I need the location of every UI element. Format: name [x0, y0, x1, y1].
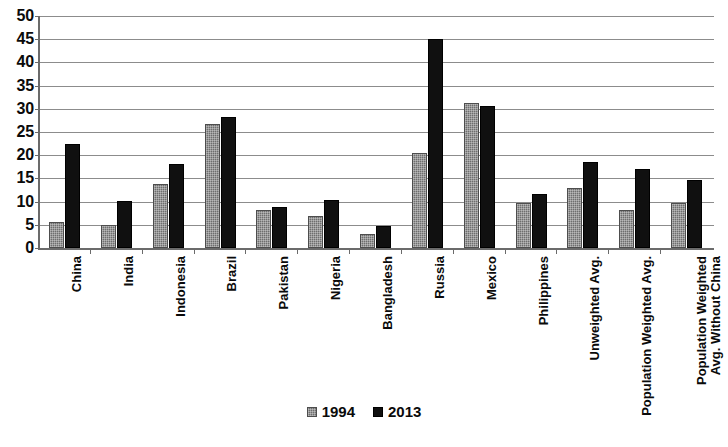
chart-legend: 19942013	[0, 404, 728, 419]
y-axis-tickmark	[35, 248, 40, 249]
x-axis-label-population-weighted-avg: Population Weighted Avg.	[640, 256, 654, 416]
bar-1994-philippines	[516, 203, 531, 248]
bar-2013-china	[65, 144, 80, 248]
bar-1994-population-weighted-avg-without-china	[671, 203, 686, 248]
bar-2013-india	[117, 201, 132, 248]
bar-group	[144, 16, 196, 248]
bar-2013-brazil	[221, 117, 236, 248]
legend-label: 1994	[322, 404, 355, 419]
y-axis-tick-label: 25	[0, 124, 34, 140]
y-axis-tick-label: 15	[0, 170, 34, 186]
bar-1994-indonesia	[153, 184, 168, 248]
bar-chart: 05101520253035404550 ChinaIndiaIndonesia…	[0, 0, 728, 447]
legend-label: 2013	[388, 404, 421, 419]
bar-2013-philippines	[532, 194, 547, 248]
x-axis-tickmark	[660, 248, 661, 254]
bar-2013-population-weighted-avg-without-china	[687, 180, 702, 248]
bar-1994-unweighted-avg	[567, 188, 582, 248]
y-axis-tick-label: 50	[0, 8, 34, 24]
y-axis-tick-label: 5	[0, 217, 34, 233]
bar-group	[662, 16, 714, 248]
bar-2013-indonesia	[169, 164, 184, 248]
x-axis-label-pakistan: Pakistan	[277, 256, 291, 309]
x-axis-label-china: China	[70, 256, 84, 292]
bar-1994-brazil	[205, 124, 220, 248]
bar-group	[247, 16, 299, 248]
x-axis-label-nigeria: Nigeria	[329, 256, 343, 300]
bar-group	[351, 16, 403, 248]
bar-group	[403, 16, 455, 248]
x-axis-label-indonesia: Indonesia	[174, 256, 188, 317]
legend-item-1994[interactable]: 1994	[307, 404, 355, 419]
bar-1994-nigeria	[308, 216, 323, 248]
x-axis-tickmark	[90, 248, 91, 254]
bar-group	[455, 16, 507, 248]
plot-area	[38, 16, 714, 250]
x-axis-label-russia: Russia	[433, 256, 447, 299]
x-axis-label-population-weighted-avg-without-china: Population Weighted Avg. Without China	[695, 256, 723, 396]
x-axis-label-philippines: Philippines	[537, 256, 551, 325]
x-axis-tickmark	[556, 248, 557, 254]
y-axis-tick-label: 30	[0, 101, 34, 117]
bar-1994-pakistan	[256, 210, 271, 248]
bar-2013-nigeria	[324, 200, 339, 248]
bars-layer	[40, 16, 714, 248]
x-axis-label-unweighted-avg: Unweighted Avg.	[588, 256, 602, 360]
y-axis-tick-label: 45	[0, 31, 34, 47]
y-axis-tick-labels: 05101520253035404550	[0, 0, 34, 260]
bar-group	[40, 16, 92, 248]
bar-2013-population-weighted-avg	[635, 169, 650, 248]
bar-group	[507, 16, 559, 248]
bar-2013-russia	[428, 39, 443, 248]
bar-group	[299, 16, 351, 248]
bar-2013-unweighted-avg	[583, 162, 598, 248]
x-axis-tickmark	[297, 248, 298, 254]
x-axis-tickmark	[142, 248, 143, 254]
bar-1994-india	[101, 225, 116, 248]
bar-2013-mexico	[480, 106, 495, 248]
bar-group	[610, 16, 662, 248]
x-axis-tickmark	[453, 248, 454, 254]
x-axis-category-labels: ChinaIndiaIndonesiaBrazilPakistanNigeria…	[38, 256, 712, 396]
bar-group	[196, 16, 248, 248]
x-axis-tickmark	[245, 248, 246, 254]
y-axis-tick-label: 0	[0, 240, 34, 256]
black-square-icon	[373, 407, 383, 417]
y-axis-tick-label: 35	[0, 78, 34, 94]
bar-1994-mexico	[464, 103, 479, 248]
x-axis-tickmark	[401, 248, 402, 254]
legend-item-2013[interactable]: 2013	[373, 404, 421, 419]
bar-1994-population-weighted-avg	[619, 210, 634, 248]
x-axis-label-india: India	[122, 256, 136, 286]
x-axis-tickmark	[505, 248, 506, 254]
bar-1994-russia	[412, 153, 427, 248]
x-axis-label-brazil: Brazil	[225, 256, 239, 291]
y-axis-tick-label: 40	[0, 54, 34, 70]
bar-2013-pakistan	[272, 207, 287, 248]
bar-2013-bangladesh	[376, 226, 391, 248]
y-axis-tick-label: 20	[0, 147, 34, 163]
gray-square-icon	[307, 407, 317, 417]
bar-1994-china	[49, 222, 64, 248]
bar-group	[92, 16, 144, 248]
x-axis-label-bangladesh: Bangladesh	[381, 256, 395, 330]
bar-group	[558, 16, 610, 248]
x-axis-tickmark	[194, 248, 195, 254]
y-axis-tick-label: 10	[0, 194, 34, 210]
x-axis-tickmark	[608, 248, 609, 254]
bar-1994-bangladesh	[360, 234, 375, 248]
x-axis-label-mexico: Mexico	[485, 256, 499, 300]
x-axis-tickmark	[349, 248, 350, 254]
